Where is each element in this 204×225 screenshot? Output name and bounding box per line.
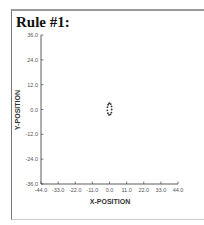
x-tick-label: 44.0 [173,187,184,193]
y-tick-label: 0.0 [30,107,38,113]
y-tick-label: 24.0 [27,57,38,63]
axes [41,35,178,184]
data-point [110,103,112,105]
y-tick-label: -12.0 [25,131,38,137]
x-tick-label: -11.0 [86,187,98,193]
x-tick-label: 11.0 [121,187,131,193]
data-point [111,109,113,111]
scatter-plot: 36.024.012.00.0-12.0-24.0-36.0 -44.0-33.… [0,0,204,225]
data-point [107,106,109,108]
y-tick-label: 36.0 [27,32,38,38]
y-tick-label: 12.0 [27,82,38,88]
x-tick-label: -33.0 [52,187,65,193]
y-axis-label: Y-POSITION [14,90,21,130]
x-tick-label: -44.0 [35,187,48,193]
data-points [106,102,112,115]
data-point [108,114,110,116]
data-point [111,105,113,107]
data-point [110,112,112,114]
x-tick-label: 22.0 [138,187,149,193]
x-tick-label: 0.0 [106,187,114,193]
data-point [107,112,109,114]
x-ticks: -44.0-33.0-22.0-11.00.011.022.033.044.0 [35,182,184,194]
data-point [108,102,110,104]
x-tick-label: 33.0 [156,187,167,193]
data-point [106,109,108,111]
x-axis-label: X-POSITION [90,198,130,205]
x-tick-label: -22.0 [69,187,82,193]
y-tick-label: -24.0 [25,156,38,162]
